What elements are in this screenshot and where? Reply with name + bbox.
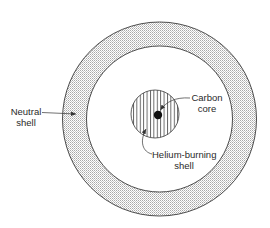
helium-shell-label-line1: Helium-burning — [152, 149, 216, 160]
carbon-core-label: Carbon core — [189, 92, 225, 114]
helium-shell-label: Helium-burning shell — [152, 149, 216, 171]
neutral-shell-label: Neutral shell — [8, 106, 44, 128]
helium-shell-label-line2: shell — [152, 160, 216, 171]
neutral-shell-label-line2: shell — [8, 117, 44, 128]
neutral-shell-label-line1: Neutral — [8, 106, 44, 117]
carbon-core-dot — [154, 111, 162, 119]
carbon-core-label-line1: Carbon — [189, 92, 225, 103]
carbon-core-label-line2: core — [189, 103, 225, 114]
